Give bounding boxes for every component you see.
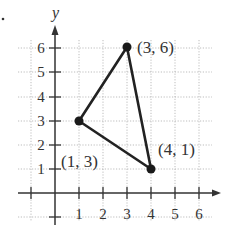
y-tick-label: 4 bbox=[37, 89, 45, 105]
point-label: (3, 6) bbox=[137, 38, 174, 57]
coordinate-plane: 1 2 3 4 5 6 1 2 3 4 5 6 y (1, 3) (3, 6) … bbox=[0, 0, 225, 225]
x-tick-label: 1 bbox=[75, 206, 83, 222]
vertex-point bbox=[75, 117, 84, 126]
axes bbox=[18, 32, 214, 225]
vertex-point bbox=[123, 43, 132, 52]
y-axis-arrow-icon bbox=[52, 25, 59, 35]
triangle bbox=[79, 47, 151, 169]
y-tick-label: 1 bbox=[37, 161, 45, 177]
x-tick-label: 4 bbox=[147, 206, 155, 222]
x-tick-label: 3 bbox=[123, 206, 131, 222]
y-tick-label: 5 bbox=[37, 64, 45, 80]
x-tick-label: 6 bbox=[195, 206, 203, 222]
stray-dot bbox=[2, 18, 5, 21]
x-tick-label: 2 bbox=[99, 206, 107, 222]
y-tick-label: 2 bbox=[37, 137, 45, 153]
y-axis-label: y bbox=[50, 4, 60, 22]
y-tick-labels: 1 2 3 4 5 6 bbox=[37, 40, 45, 177]
x-tick-label: 5 bbox=[171, 206, 179, 222]
y-tick-label: 3 bbox=[37, 113, 45, 129]
point-label: (1, 3) bbox=[61, 152, 98, 171]
point-label: (4, 1) bbox=[158, 140, 195, 159]
x-axis-arrow-icon bbox=[212, 190, 221, 197]
y-tick-label: 6 bbox=[37, 40, 45, 56]
vertex-point bbox=[147, 165, 156, 174]
x-tick-labels: 1 2 3 4 5 6 bbox=[75, 206, 203, 222]
